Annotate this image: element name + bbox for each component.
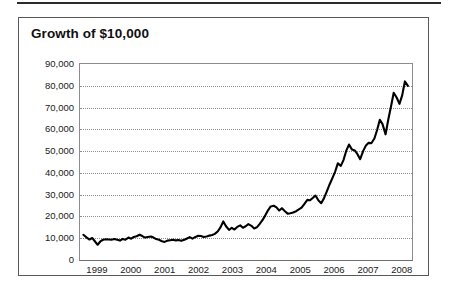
x-tick-label: 2000 — [120, 264, 141, 275]
x-tick-label: 2002 — [188, 264, 209, 275]
x-tick-label: 2008 — [391, 264, 412, 275]
x-tick-label: 2003 — [222, 264, 243, 275]
page-top-rule — [17, 2, 441, 4]
x-axis-labels: 1999200020012002200320042005200620072008 — [79, 264, 413, 280]
y-tick-label: 60,000 — [45, 123, 74, 134]
y-axis-labels: 010,00020,00030,00040,00050,00060,00070,… — [19, 63, 74, 259]
y-tick-label: 20,000 — [45, 210, 74, 221]
x-tick-label: 2001 — [154, 264, 175, 275]
x-tick-label: 2004 — [256, 264, 277, 275]
y-tick-label: 70,000 — [45, 101, 74, 112]
x-tick-label: 2007 — [357, 264, 378, 275]
y-tick-label: 90,000 — [45, 58, 74, 69]
chart-card: Growth of $10,000 010,00020,00030,00040,… — [18, 17, 429, 276]
y-tick-label: 40,000 — [45, 166, 74, 177]
y-tick-label: 0 — [69, 254, 74, 265]
x-tick-label: 1999 — [86, 264, 107, 275]
y-tick-label: 80,000 — [45, 79, 74, 90]
plot-area — [79, 63, 413, 261]
series-line-growth — [83, 81, 408, 244]
x-tick-label: 2005 — [290, 264, 311, 275]
y-tick-label: 50,000 — [45, 145, 74, 156]
y-tick-label: 10,000 — [45, 232, 74, 243]
line-series-chart — [80, 64, 412, 260]
y-tick-label: 30,000 — [45, 188, 74, 199]
plot-wrapper: 010,00020,00030,00040,00050,00060,00070,… — [19, 18, 430, 277]
x-tick-label: 2006 — [324, 264, 345, 275]
